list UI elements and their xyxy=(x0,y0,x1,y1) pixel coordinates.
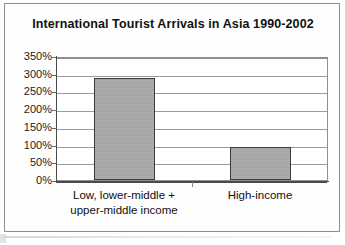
y-axis-line xyxy=(56,56,57,183)
x-axis-category-label: High-income xyxy=(192,188,328,203)
scan-artifact-mark xyxy=(0,234,6,243)
x-axis-category-label-line: Low, lower-middle + xyxy=(56,188,192,203)
y-axis-tick-mark xyxy=(52,128,56,129)
y-axis-tick-mark xyxy=(52,75,56,76)
category-divider-tick xyxy=(192,182,193,187)
x-axis-category-label: Low, lower-middle +upper-middle income xyxy=(56,188,192,218)
y-axis-tick-label: 100% xyxy=(24,140,52,151)
bar xyxy=(94,78,155,180)
bar xyxy=(230,147,291,180)
y-axis-tick-mark xyxy=(52,92,56,93)
gridline xyxy=(56,76,327,77)
x-axis-category-label-line: High-income xyxy=(192,188,328,203)
y-axis-tick-mark xyxy=(52,163,56,164)
y-axis-tick-label: 0% xyxy=(36,175,52,186)
x-axis-category-label-line: upper-middle income xyxy=(56,203,192,218)
scan-artifact-line xyxy=(2,236,332,238)
y-axis-tick-label: 250% xyxy=(24,86,52,97)
y-axis-tick-labels: 0%50%100%150%200%250%300%350% xyxy=(5,4,52,233)
y-axis-tick-label: 150% xyxy=(24,122,52,133)
chart-title: International Tourist Arrivals in Asia 1… xyxy=(5,17,341,31)
scanned-page: International Tourist Arrivals in Asia 1… xyxy=(0,0,345,245)
y-axis-tick-label: 200% xyxy=(24,104,52,115)
y-axis-tick-mark xyxy=(52,57,56,58)
y-axis-tick-label: 300% xyxy=(24,69,52,80)
chart-frame: International Tourist Arrivals in Asia 1… xyxy=(4,3,340,232)
gridline xyxy=(56,58,327,59)
y-axis-tick-label: 350% xyxy=(24,51,52,62)
plot-area xyxy=(56,57,328,181)
y-axis-tick-mark xyxy=(52,110,56,111)
y-axis-tick-mark xyxy=(52,146,56,147)
y-axis-tick-label: 50% xyxy=(30,157,52,168)
